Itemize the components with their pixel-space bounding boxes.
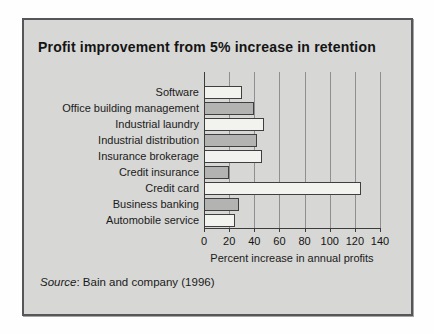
bar-row bbox=[204, 180, 380, 196]
y-axis-line bbox=[204, 72, 205, 228]
x-tick-label-60: 60 bbox=[273, 235, 285, 247]
source-prefix: Source bbox=[40, 276, 76, 288]
category-label-industrial-distribution: Industrial distribution bbox=[98, 132, 204, 148]
bar-insurance-brokerage bbox=[204, 150, 262, 163]
category-label-credit-card: Credit card bbox=[145, 180, 204, 196]
bar-credit-insurance bbox=[204, 166, 229, 179]
category-label-industrial-laundry: Industrial laundry bbox=[115, 116, 204, 132]
x-axis-line bbox=[204, 228, 380, 229]
bar-industrial-laundry bbox=[204, 118, 264, 131]
bar-row bbox=[204, 212, 380, 228]
source-text: : Bain and company (1996) bbox=[76, 276, 214, 288]
x-tick-label-80: 80 bbox=[298, 235, 310, 247]
gridline-x-140 bbox=[380, 72, 381, 228]
figure-panel: Profit improvement from 5% increase in r… bbox=[22, 18, 413, 316]
bar-row bbox=[204, 84, 380, 100]
category-label-business-banking: Business banking bbox=[113, 196, 204, 212]
chart-plot-area: Percent increase in annual profits 02040… bbox=[204, 72, 380, 228]
bar-row bbox=[204, 164, 380, 180]
bar-row bbox=[204, 116, 380, 132]
bar-row bbox=[204, 196, 380, 212]
x-tick-label-100: 100 bbox=[321, 235, 339, 247]
category-label-automobile-service: Automobile service bbox=[106, 212, 204, 228]
x-tick-label-120: 120 bbox=[346, 235, 364, 247]
bar-row bbox=[204, 100, 380, 116]
bar-row bbox=[204, 148, 380, 164]
category-label-office-building-management: Office building management bbox=[62, 100, 204, 116]
bar-row bbox=[204, 132, 380, 148]
bar-industrial-distribution bbox=[204, 134, 257, 147]
category-label-software: Software bbox=[156, 84, 204, 100]
x-tick-label-140: 140 bbox=[371, 235, 389, 247]
source-note: Source: Bain and company (1996) bbox=[40, 276, 215, 288]
bar-business-banking bbox=[204, 198, 239, 211]
bar-series bbox=[204, 84, 380, 228]
x-tick-label-20: 20 bbox=[223, 235, 235, 247]
x-tick-label-40: 40 bbox=[248, 235, 260, 247]
x-tick-label-0: 0 bbox=[201, 235, 207, 247]
category-label-insurance-brokerage: Insurance brokerage bbox=[98, 148, 204, 164]
x-axis-label: Percent increase in annual profits bbox=[204, 252, 380, 264]
bar-office-building-management bbox=[204, 102, 254, 115]
bar-credit-card bbox=[204, 182, 361, 195]
tick-mark-x-140 bbox=[380, 228, 381, 232]
bar-automobile-service bbox=[204, 214, 235, 227]
chart-title: Profit improvement from 5% increase in r… bbox=[38, 39, 376, 55]
bar-software bbox=[204, 86, 242, 99]
category-label-credit-insurance: Credit insurance bbox=[119, 164, 204, 180]
